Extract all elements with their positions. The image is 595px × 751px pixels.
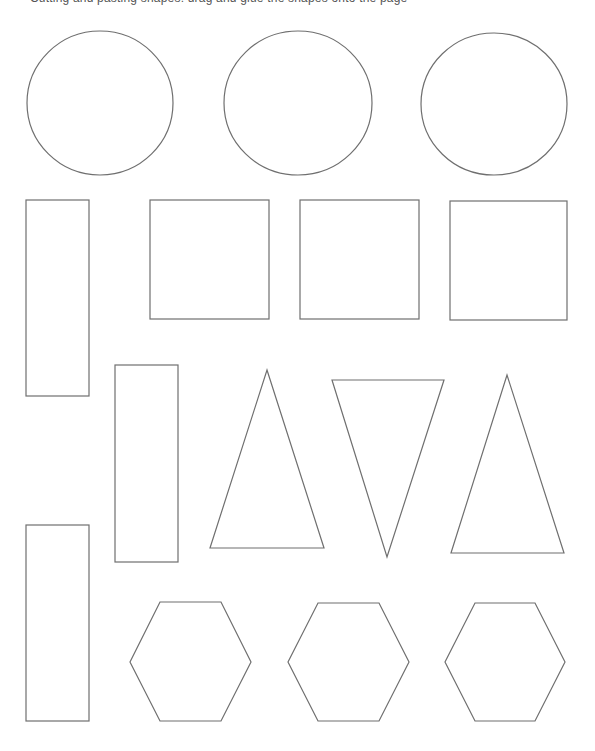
triangles-group bbox=[210, 370, 564, 557]
rectangles-group bbox=[26, 200, 178, 721]
hexagon-3 bbox=[445, 603, 565, 721]
square-2 bbox=[300, 200, 419, 319]
rectangle-3 bbox=[26, 525, 89, 721]
circle-3 bbox=[421, 33, 567, 175]
circle-2 bbox=[224, 31, 372, 175]
triangle-3 bbox=[451, 375, 564, 553]
rectangle-2 bbox=[115, 365, 178, 562]
squares-group bbox=[150, 200, 567, 320]
square-1 bbox=[150, 200, 269, 319]
square-3 bbox=[450, 201, 567, 320]
shapes-worksheet bbox=[0, 0, 595, 751]
hexagon-2 bbox=[288, 603, 409, 721]
rectangle-1 bbox=[26, 200, 89, 396]
hexagon-1 bbox=[130, 602, 251, 721]
hexagons-row bbox=[130, 602, 565, 721]
triangle-inverted bbox=[332, 380, 444, 557]
circles-row bbox=[27, 31, 567, 175]
triangle-1 bbox=[210, 370, 324, 548]
circle-1 bbox=[27, 31, 173, 175]
